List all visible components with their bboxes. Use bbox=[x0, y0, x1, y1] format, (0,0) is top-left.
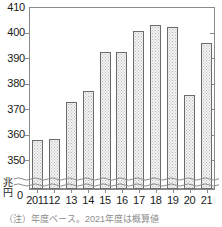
bar-slot bbox=[29, 7, 46, 189]
bar-slot bbox=[130, 7, 147, 189]
bar-chart: 350360370380390400410 兆 円 0 201112131415… bbox=[0, 0, 222, 227]
y-axis-zero-label: 0 bbox=[17, 190, 23, 201]
x-tick-mark bbox=[37, 189, 38, 193]
y-tick-label: 360 bbox=[7, 129, 25, 140]
x-axis-labels: 201112131415161718192021 bbox=[29, 194, 215, 208]
y-axis-unit-label: 兆 円 bbox=[1, 178, 15, 198]
bars-layer bbox=[29, 7, 215, 189]
bar-slot bbox=[46, 7, 63, 189]
x-tick-mark bbox=[54, 189, 55, 193]
y-tick-label: 370 bbox=[7, 104, 25, 115]
x-tick-label: 16 bbox=[116, 194, 128, 206]
bar[interactable] bbox=[116, 52, 127, 189]
y-tick-label: 400 bbox=[7, 27, 25, 38]
bar[interactable] bbox=[184, 95, 195, 189]
x-tick-label: 21 bbox=[201, 194, 213, 206]
x-tick-mark bbox=[88, 189, 89, 193]
y-tick-label: 380 bbox=[7, 78, 25, 89]
x-tick-label: 19 bbox=[167, 194, 179, 206]
x-tick-label: 12 bbox=[49, 194, 61, 206]
bar[interactable] bbox=[133, 31, 144, 189]
x-tick-mark bbox=[105, 189, 106, 193]
x-tick-mark bbox=[156, 189, 157, 193]
bar[interactable] bbox=[167, 27, 178, 189]
bar[interactable] bbox=[150, 25, 161, 189]
bar[interactable] bbox=[100, 52, 111, 189]
bar[interactable] bbox=[201, 43, 212, 189]
chart-footnote: （注）年度ベース。2021年度は概算値 bbox=[4, 214, 218, 224]
bar-slot bbox=[97, 7, 114, 189]
bar[interactable] bbox=[83, 91, 94, 189]
bar[interactable] bbox=[49, 139, 60, 189]
bar-slot bbox=[164, 7, 181, 189]
bar[interactable] bbox=[66, 102, 77, 190]
x-tick-label: 14 bbox=[82, 194, 94, 206]
x-tick-mark bbox=[71, 189, 72, 193]
bar[interactable] bbox=[32, 140, 43, 189]
y-tick-label: 390 bbox=[7, 53, 25, 64]
x-tick-label: 13 bbox=[65, 194, 77, 206]
x-tick-label: 18 bbox=[150, 194, 162, 206]
x-tick-mark bbox=[139, 189, 140, 193]
y-tick-label: 350 bbox=[7, 155, 25, 166]
bar-slot bbox=[147, 7, 164, 189]
bar-slot bbox=[114, 7, 131, 189]
x-tick-label: 17 bbox=[133, 194, 145, 206]
bar-slot bbox=[80, 7, 97, 189]
x-tick-mark bbox=[122, 189, 123, 193]
x-tick-label: 20 bbox=[184, 194, 196, 206]
x-tick-mark bbox=[190, 189, 191, 193]
bar-slot bbox=[198, 7, 215, 189]
bar-slot bbox=[63, 7, 80, 189]
x-tick-label: 2011 bbox=[26, 194, 48, 206]
x-tick-mark bbox=[207, 189, 208, 193]
x-tick-mark bbox=[173, 189, 174, 193]
bar-slot bbox=[181, 7, 198, 189]
y-tick-label: 410 bbox=[7, 2, 25, 13]
unit-char-en: 円 bbox=[1, 188, 15, 198]
x-tick-label: 15 bbox=[99, 194, 111, 206]
